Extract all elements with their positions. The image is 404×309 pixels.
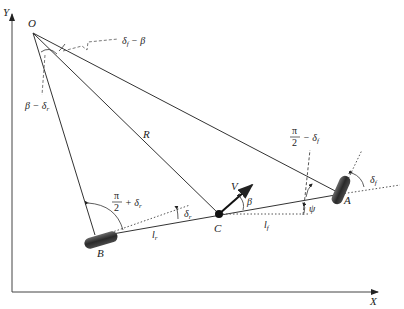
line-O-A: [33, 33, 341, 194]
lr-label: lr: [152, 229, 158, 242]
svg-text:2: 2: [114, 202, 119, 213]
svg-text:π: π: [114, 190, 119, 201]
label-beta-minus-delta-r: β − δr: [24, 100, 49, 113]
svg-text:2: 2: [292, 137, 297, 148]
radius-R-label: R: [142, 128, 150, 140]
point-C-label: C: [214, 222, 222, 234]
arc-beta-minus-delta-r: [41, 49, 57, 54]
y-axis-label: Y: [3, 6, 11, 18]
leader-lines: [42, 39, 118, 95]
svg-text:− δf: − δf: [303, 132, 320, 145]
leader-delta-f-minus-beta: [63, 39, 118, 51]
label-delta-f-minus-beta: δf − β: [122, 35, 145, 48]
leader-beta-minus-delta-r: [42, 55, 45, 95]
svg-text:π: π: [292, 125, 297, 136]
bicycle-model-diagram: Y X δf − β β − δr O R C V β: [0, 0, 404, 309]
x-axis-label: X: [369, 295, 378, 307]
arc-beta: [240, 197, 244, 210]
point-B-label: B: [97, 247, 104, 259]
lf-label: lf: [264, 219, 270, 232]
front-heading-dotted: [341, 185, 400, 194]
arc-delta-f: [352, 173, 364, 187]
beta-label: β: [246, 196, 252, 207]
psi-label: ψ: [309, 203, 316, 214]
velocity-V-label: V: [231, 180, 239, 192]
label-pi2-minus-delta-f: π 2 − δf: [290, 125, 320, 148]
arc-front-pi2-minus-delta-f: [306, 184, 312, 197]
point-O-label: O: [28, 17, 36, 29]
arc-delta-r: [177, 209, 178, 219]
svg-text:+ δr: + δr: [125, 197, 142, 210]
delta-r-label: δr: [184, 208, 192, 221]
point-A-label: A: [343, 194, 351, 206]
label-pi2-plus-delta-r: π 2 + δr: [112, 190, 142, 213]
delta-f-label: δf: [370, 174, 378, 187]
dotted-lines: [101, 150, 400, 236]
